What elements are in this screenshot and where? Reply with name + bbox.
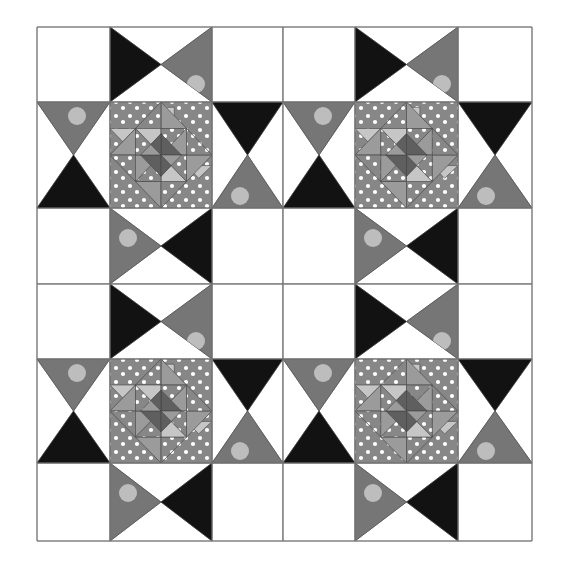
sun-circle-motif — [231, 187, 249, 205]
center-medallion — [110, 359, 212, 463]
corner-square — [212, 208, 283, 284]
center-medallion — [355, 359, 458, 463]
corner-square — [37, 208, 110, 284]
quilt-diagram — [0, 0, 562, 578]
corner-square — [283, 463, 355, 541]
corner-square — [458, 463, 532, 541]
sun-circle-motif — [231, 442, 249, 460]
sun-circle-motif — [68, 364, 86, 382]
block-top-right — [283, 27, 532, 284]
sun-circle-motif — [314, 364, 332, 382]
center-medallion — [110, 102, 212, 208]
block-bottom-right — [283, 284, 532, 541]
sun-circle-motif — [119, 484, 137, 502]
sun-circle-motif — [364, 229, 382, 247]
corner-square — [458, 284, 532, 359]
block-bottom-left — [37, 284, 283, 541]
center-medallion — [355, 102, 458, 208]
corner-square — [37, 463, 110, 541]
corner-square — [212, 27, 283, 102]
corner-square — [212, 463, 283, 541]
sun-circle-motif — [477, 187, 495, 205]
sun-circle-motif — [477, 442, 495, 460]
sun-circle-motif — [119, 229, 137, 247]
sun-circle-motif — [314, 107, 332, 125]
corner-square — [37, 284, 110, 359]
corner-square — [458, 27, 532, 102]
sun-circle-motif — [364, 484, 382, 502]
block-top-left — [37, 27, 283, 284]
corner-square — [283, 27, 355, 102]
corner-square — [37, 27, 110, 102]
corner-square — [212, 284, 283, 359]
corner-square — [458, 208, 532, 284]
corner-square — [283, 208, 355, 284]
sun-circle-motif — [68, 107, 86, 125]
corner-square — [283, 284, 355, 359]
